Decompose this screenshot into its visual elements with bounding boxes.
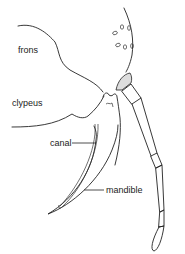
label-canal: canal xyxy=(50,139,72,148)
label-frons: frons xyxy=(18,46,38,55)
antenna-shaft xyxy=(132,98,157,156)
frons-outline xyxy=(18,25,103,92)
antenna-segment-3 xyxy=(159,210,164,227)
label-clypeus: clypeus xyxy=(12,99,43,108)
antenna-segment-2 xyxy=(156,165,164,212)
insect-head-drawing xyxy=(0,0,185,254)
antennal-socket xyxy=(116,73,132,90)
head-contour xyxy=(124,8,133,72)
antenna-club xyxy=(152,226,164,251)
label-mandible: mandible xyxy=(106,186,143,195)
ocelli-dots xyxy=(112,25,133,49)
